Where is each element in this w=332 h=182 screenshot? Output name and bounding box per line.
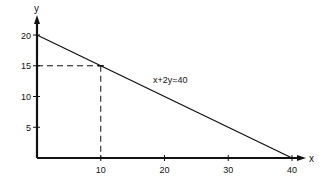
labels: x y x+2y=40 bbox=[34, 3, 314, 164]
y-tick-label: 5 bbox=[26, 123, 31, 133]
chart: 102030405101520 x y x+2y=40 bbox=[0, 0, 332, 182]
x-tick-label: 40 bbox=[287, 165, 297, 175]
guide-lines bbox=[37, 66, 104, 158]
y-tick-label: 10 bbox=[21, 92, 31, 102]
y-axis-label: y bbox=[34, 3, 39, 14]
x-axis-arrow-icon bbox=[297, 155, 306, 161]
constraint-line bbox=[37, 35, 292, 158]
x-axis-label: x bbox=[309, 153, 314, 164]
y-tick-label: 15 bbox=[21, 61, 31, 71]
x-tick-label: 20 bbox=[159, 165, 169, 175]
series bbox=[37, 35, 292, 158]
x-tick-label: 10 bbox=[96, 165, 106, 175]
y-axis-arrow-icon bbox=[34, 15, 40, 24]
equation-label: x+2y=40 bbox=[153, 75, 188, 85]
axes bbox=[34, 15, 306, 161]
y-tick-label: 20 bbox=[21, 31, 31, 41]
ticks: 102030405101520 bbox=[21, 31, 297, 176]
x-tick-label: 30 bbox=[223, 165, 233, 175]
